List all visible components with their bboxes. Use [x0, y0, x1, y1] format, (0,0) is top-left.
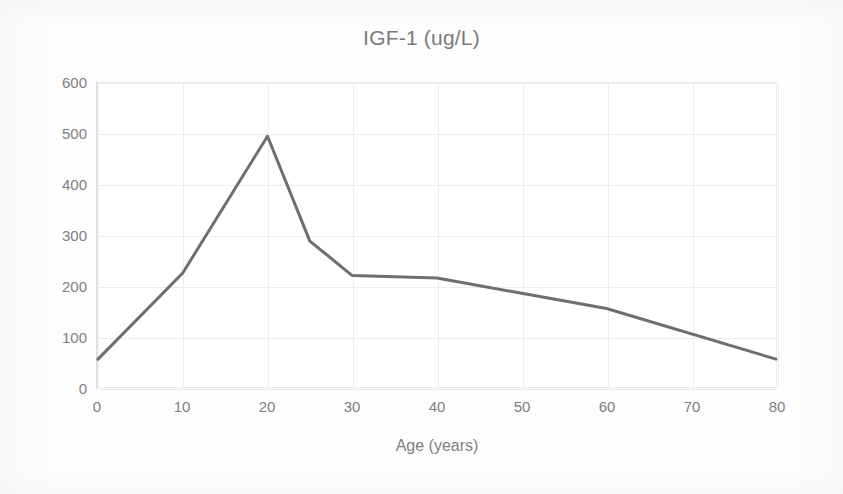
y-axis-tick-label: 0 — [25, 380, 87, 397]
y-axis-tick-label: 600 — [25, 74, 87, 91]
x-axis-tick-label: 10 — [157, 398, 207, 415]
series-line-igf1 — [98, 83, 776, 387]
x-axis-tick-label: 40 — [412, 398, 462, 415]
y-axis-tick-label: 400 — [25, 176, 87, 193]
y-axis-tick-label: 200 — [25, 278, 87, 295]
gridline-horizontal — [98, 389, 776, 390]
x-axis-tick-label: 70 — [667, 398, 717, 415]
x-axis-title: Age (years) — [97, 437, 777, 455]
chart-title: IGF-1 (ug/L) — [0, 26, 843, 50]
x-axis-tick-label: 30 — [327, 398, 377, 415]
x-axis-tick-label: 0 — [72, 398, 122, 415]
x-axis-tick-label: 50 — [497, 398, 547, 415]
data-line — [98, 136, 776, 359]
chart-figure: IGF-1 (ug/L) 0100200300400500600 0102030… — [0, 0, 843, 494]
plot-area — [97, 82, 777, 388]
y-axis-tick-label: 300 — [25, 227, 87, 244]
x-axis-tick-label: 60 — [582, 398, 632, 415]
x-axis-tick-label: 20 — [242, 398, 292, 415]
y-axis-tick-label: 100 — [25, 329, 87, 346]
y-axis-tick-label: 500 — [25, 125, 87, 142]
x-axis-tick-label: 80 — [752, 398, 802, 415]
gridline-vertical — [778, 83, 779, 387]
